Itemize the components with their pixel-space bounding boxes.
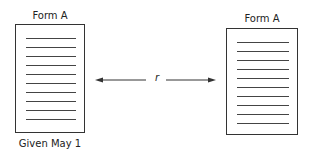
connector-label: r	[150, 72, 164, 84]
left-arrow-icon	[95, 78, 146, 83]
right-arrow-icon	[166, 78, 216, 83]
